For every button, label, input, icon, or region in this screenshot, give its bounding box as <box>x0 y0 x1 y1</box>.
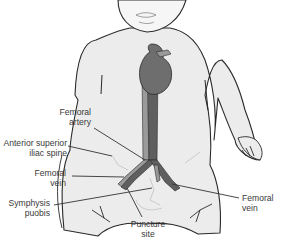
label-puncture-site: Puncture site <box>128 219 168 239</box>
label-symphysis-pubis: Symphysis puobis <box>4 198 50 218</box>
label-femoral-vein-left: Femoral vein <box>30 168 66 188</box>
label-line: Femoral <box>30 168 66 178</box>
label-line: iliac spine <box>0 148 67 158</box>
label-line: Symphysis <box>4 198 50 208</box>
infant-body <box>62 0 260 236</box>
label-line: Femoral <box>55 107 91 117</box>
label-femoral-artery: Femoral artery <box>55 107 91 127</box>
head-outline <box>118 0 186 32</box>
label-line: vein <box>30 178 66 188</box>
label-line: Femoral <box>242 193 282 203</box>
label-line: Puncture <box>128 219 168 229</box>
label-anterior-superior-iliac-spine: Anterior superior iliac spine <box>0 138 67 158</box>
label-line: vein <box>242 203 282 213</box>
label-line: Anterior superior <box>0 138 67 148</box>
label-line: site <box>128 229 168 239</box>
label-femoral-vein-right: Femoral vein <box>242 193 282 213</box>
label-line: puobis <box>4 208 50 218</box>
label-line: artery <box>55 117 91 127</box>
